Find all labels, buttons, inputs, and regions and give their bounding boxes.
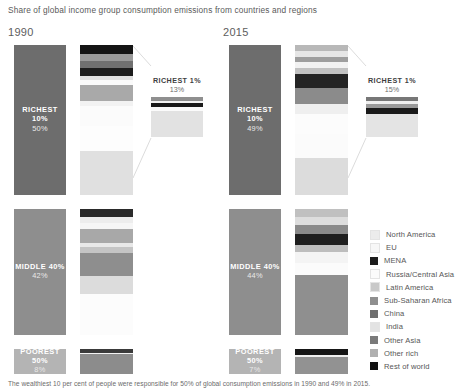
stack-segment [295, 225, 348, 234]
stack-segment [80, 294, 133, 335]
legend-swatch-icon [370, 297, 378, 305]
chart-title: Share of global income group consumption… [8, 5, 317, 15]
composition-stack-poorest50-1990[interactable] [80, 349, 133, 374]
group-bar-richest10-1990[interactable]: RICHEST 10% 50% [14, 45, 66, 195]
composition-stack-richest1-2015[interactable] [366, 97, 418, 137]
legend-item-russia-central-asia[interactable]: Russia/Central Asia [370, 268, 454, 281]
legend-label: Russia/Central Asia [386, 270, 454, 279]
stack-segment [80, 209, 133, 217]
composition-stack-richest10-1990[interactable] [80, 45, 133, 195]
group-bar-richest10-2015[interactable]: RICHEST 10% 49% [229, 45, 281, 195]
legend-label: Sub-Saharan Africa [384, 296, 452, 305]
legend-swatch-icon [370, 336, 378, 344]
stack-segment [295, 134, 348, 158]
callout-label-1990: RICHEST 1% [148, 76, 206, 85]
composition-stack-richest10-2015[interactable] [295, 45, 348, 195]
stack-segment [80, 45, 133, 54]
legend-label: MENA [384, 256, 406, 265]
stack-segment [80, 151, 133, 195]
stack-segment [295, 275, 348, 335]
stack-segment [295, 158, 348, 195]
legend-item-latin-america[interactable]: Latin America [370, 281, 454, 294]
stack-segment [295, 114, 348, 134]
stack-segment [366, 114, 418, 137]
stack-segment [295, 88, 348, 103]
group-bar-label: MIDDLE 40% [230, 263, 280, 272]
group-bar-label: MIDDLE 40% [15, 263, 65, 272]
stack-segment [80, 276, 133, 293]
stack-segment [80, 229, 133, 242]
stack-segment [295, 357, 348, 374]
stack-segment [80, 354, 133, 374]
group-bar-label: RICHEST 10% [14, 106, 66, 123]
panel-year-2015: 2015 [223, 26, 249, 38]
legend-item-eu[interactable]: EU [370, 241, 454, 254]
legend-swatch-icon [370, 282, 380, 292]
stack-segment [80, 85, 133, 101]
group-bar-value: 8% [34, 365, 45, 375]
legend-swatch-icon [370, 243, 380, 253]
legend-swatch-icon [370, 349, 378, 357]
stack-segment [80, 106, 133, 126]
group-bar-value: 42% [32, 271, 48, 281]
legend-swatch-icon [370, 362, 378, 370]
stack-segment [295, 104, 348, 114]
stack-segment [80, 253, 133, 276]
legend-item-india[interactable]: India [370, 320, 454, 333]
stack-segment [80, 61, 133, 68]
composition-stack-richest1-1990[interactable] [151, 97, 203, 137]
composition-stack-middle40-2015[interactable] [295, 209, 348, 335]
stack-segment [295, 74, 348, 88]
callout-value-1990: 13% [148, 85, 206, 94]
group-bar-value: 49% [247, 124, 263, 134]
group-bar-middle40-2015[interactable]: MIDDLE 40% 44% [229, 209, 281, 335]
chart-canvas: Share of global income group consumption… [0, 0, 474, 390]
legend-swatch-icon [370, 269, 380, 279]
stack-segment [80, 223, 133, 230]
legend-item-china[interactable]: China [370, 307, 454, 320]
stack-segment [295, 245, 348, 252]
group-bar-value: 44% [247, 271, 263, 281]
legend-item-sub-saharan-africa[interactable]: Sub-Saharan Africa [370, 294, 454, 307]
legend-label: Other rich [384, 349, 418, 358]
legend-item-mena[interactable]: MENA [370, 254, 454, 267]
callout-value-2015: 15% [363, 85, 421, 94]
stack-segment [295, 217, 348, 225]
legend: North AmericaEUMENARussia/Central AsiaLa… [370, 228, 454, 373]
group-bar-label: POOREST 50% [229, 348, 281, 365]
legend-item-other-rich[interactable]: Other rich [370, 347, 454, 360]
legend-label: Rest of world [384, 362, 430, 371]
group-bar-label: POOREST 50% [14, 348, 66, 365]
stack-segment [80, 54, 133, 61]
legend-label: Latin America [386, 283, 433, 292]
chart-caption: The wealthiest 10 per cent of people wer… [8, 380, 370, 387]
legend-swatch-icon [370, 230, 380, 240]
legend-label: EU [386, 243, 397, 252]
composition-stack-poorest50-2015[interactable] [295, 349, 348, 374]
legend-label: China [384, 309, 404, 318]
stack-segment [295, 252, 348, 263]
composition-stack-middle40-1990[interactable] [80, 209, 133, 335]
legend-swatch-icon [370, 310, 378, 318]
stack-segment [295, 209, 348, 217]
group-bar-label: RICHEST 10% [229, 106, 281, 123]
stack-segment [80, 126, 133, 151]
stack-segment [295, 68, 348, 75]
legend-swatch-icon [370, 257, 378, 265]
stack-segment [151, 111, 203, 137]
stack-segment [295, 234, 348, 245]
legend-label: India [386, 322, 403, 331]
stack-segment [295, 263, 348, 274]
legend-label: North America [386, 230, 435, 239]
legend-swatch-icon [370, 322, 380, 332]
legend-item-rest-of-world[interactable]: Rest of world [370, 360, 454, 373]
legend-item-other-asia[interactable]: Other Asia [370, 334, 454, 347]
panel-year-1990: 1990 [8, 26, 34, 38]
legend-item-north-america[interactable]: North America [370, 228, 454, 241]
legend-label: Other Asia [384, 336, 420, 345]
callout-label-2015: RICHEST 1% [363, 76, 421, 85]
group-bar-middle40-1990[interactable]: MIDDLE 40% 42% [14, 209, 66, 335]
group-bar-poorest50-2015[interactable]: POOREST 50% 7% [229, 349, 281, 374]
group-bar-value: 7% [249, 365, 260, 375]
group-bar-poorest50-1990[interactable]: POOREST 50% 8% [14, 349, 66, 374]
